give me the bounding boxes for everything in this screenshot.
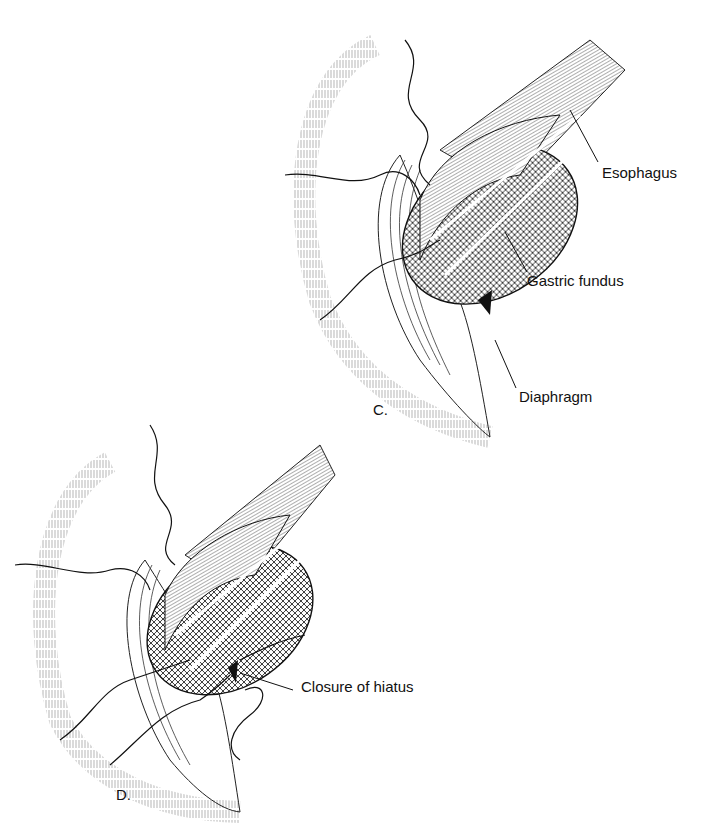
label-diaphragm: Diaphragm	[519, 388, 592, 405]
surgical-illustration: Esophagus Gastric fundus Diaphragm C. Cl…	[0, 0, 701, 837]
panel-d-drawing	[15, 425, 342, 812]
panel-letter-c: C.	[373, 401, 388, 418]
panel-c-drawing	[285, 40, 625, 437]
label-closure-of-hiatus: Closure of hiatus	[301, 678, 414, 695]
illustration-drawing	[0, 0, 701, 837]
panel-letter-d: D.	[116, 786, 131, 803]
label-esophagus: Esophagus	[602, 164, 677, 181]
label-gastric-fundus: Gastric fundus	[527, 272, 624, 289]
